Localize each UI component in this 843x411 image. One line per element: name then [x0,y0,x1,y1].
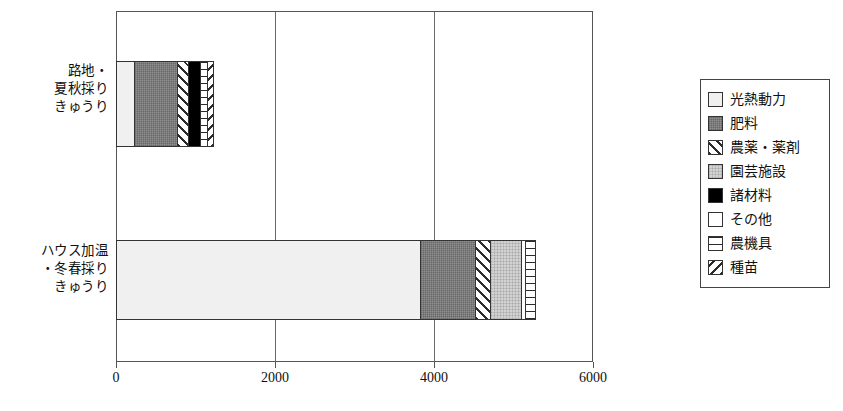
legend-swatch-icon [708,236,723,251]
legend-swatch-icon [708,92,723,107]
legend-label: 農薬・薬剤 [730,140,800,155]
legend-label: 肥料 [730,116,758,131]
stacked-bar-row-1 [116,240,536,320]
bar-segment [420,240,476,320]
x-tick-label-2000: 2000 [245,370,305,386]
legend-swatch-icon [708,212,723,227]
x-tick-mark-6000 [593,362,594,368]
bar-segment [116,240,421,320]
stacked-bar-row-0 [116,61,214,147]
legend-item-7[interactable]: 種苗 [708,255,823,279]
chart-root: 路地・ 夏秋採り きゅうり ハウス加温 ・冬春採り きゅうり 020004000… [0,0,843,411]
chart-legend: 光熱動力肥料農薬・薬剤園芸施設諸材料その他農機具種苗 [700,79,830,288]
x-tick-label-4000: 4000 [404,370,464,386]
legend-swatch-icon [708,188,723,203]
legend-item-2[interactable]: 農薬・薬剤 [708,135,823,159]
bar-segment [525,240,535,320]
x-tick-label-6000: 6000 [563,370,623,386]
x-tick-mark-4000 [434,362,435,368]
bar-segment [475,240,491,320]
bar-segment [207,61,214,147]
legend-label: 農機具 [730,236,772,251]
category-label-0: 路地・ 夏秋採り きゅうり [0,62,108,116]
legend-item-3[interactable]: 園芸施設 [708,159,823,183]
legend-label: 光熱動力 [730,92,786,107]
legend-item-4[interactable]: 諸材料 [708,183,823,207]
x-tick-label-0: 0 [86,370,146,386]
bar-segment [490,240,521,320]
x-tick-mark-2000 [275,362,276,368]
legend-item-6[interactable]: 農機具 [708,231,823,255]
legend-swatch-icon [708,140,723,155]
legend-item-0[interactable]: 光熱動力 [708,87,823,111]
legend-label: その他 [730,212,772,227]
legend-item-5[interactable]: その他 [708,207,823,231]
legend-item-1[interactable]: 肥料 [708,111,823,135]
x-tick-mark-0 [116,362,117,368]
legend-label: 種苗 [730,260,758,275]
legend-swatch-icon [708,164,723,179]
legend-label: 園芸施設 [730,164,786,179]
legend-swatch-icon [708,116,723,131]
bar-segment [134,61,178,147]
legend-swatch-icon [708,260,723,275]
legend-label: 諸材料 [730,188,772,203]
bar-segment [116,61,135,147]
category-label-1: ハウス加温 ・冬春採り きゅうり [0,242,108,296]
